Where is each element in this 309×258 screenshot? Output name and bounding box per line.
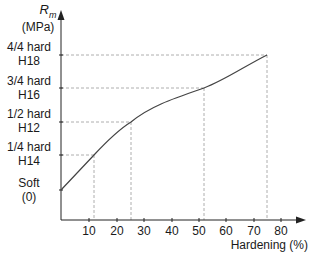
y-axis-unit: (MPa) — [16, 20, 60, 34]
x-tick-10: 10 — [77, 224, 101, 238]
y-label-h12: 1/2 hardH12 — [0, 107, 58, 135]
x-tick-20: 20 — [105, 224, 129, 238]
y-label-soft: Soft(0) — [0, 176, 58, 204]
x-axis-arrow-icon — [296, 217, 306, 224]
x-tick-50: 50 — [187, 224, 211, 238]
x-tick-70: 70 — [242, 224, 266, 238]
horizontal-reference-lines — [61, 55, 267, 155]
x-tick-60: 60 — [214, 224, 238, 238]
vertical-reference-lines — [94, 55, 267, 220]
x-tick-30: 30 — [132, 224, 156, 238]
y-label-h18: 4/4 hardH18 — [0, 40, 58, 68]
y-label-h16: 3/4 hardH16 — [0, 74, 58, 102]
x-tick-40: 40 — [160, 224, 184, 238]
y-label-h14: 1/4 hardH14 — [0, 140, 58, 168]
x-tick-80: 80 — [269, 224, 293, 238]
hardening-curve — [61, 55, 267, 190]
y-axis-symbol: Rm — [33, 3, 63, 22]
axes — [61, 18, 298, 220]
x-axis-title: Hardening (%) — [200, 238, 308, 252]
